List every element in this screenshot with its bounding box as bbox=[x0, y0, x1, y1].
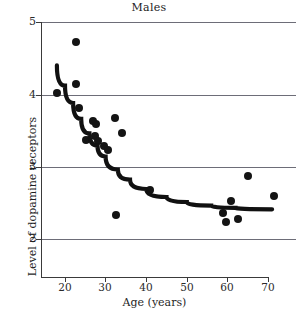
trend-curve-layer bbox=[0, 0, 298, 317]
trend-curve bbox=[57, 65, 272, 209]
figure: Males 5 4 3 2 20 30 40 50 60 70 Age (yea… bbox=[0, 0, 298, 317]
x-axis-title: Age (years) bbox=[41, 296, 268, 309]
y-axis-title: Level of dopamine receptors bbox=[26, 97, 39, 297]
